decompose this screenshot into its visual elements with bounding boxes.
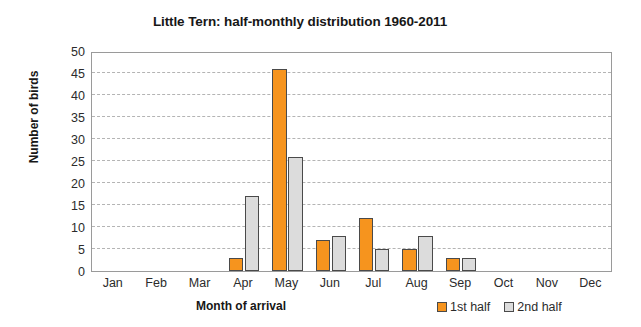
chart-legend: 1st half2nd half (437, 300, 562, 314)
month-bar-group (396, 53, 439, 271)
x-tick-label-oct: Oct (482, 276, 525, 290)
x-tick-label-jul: Jul (352, 276, 395, 290)
x-tick-label-feb: Feb (134, 276, 177, 290)
x-tick-label-dec: Dec (569, 276, 612, 290)
month-bar-group (570, 53, 613, 271)
month-bar-group (526, 53, 569, 271)
gray-square-swatch (504, 302, 514, 312)
chart-figure: Little Tern: half-monthly distribution 1… (0, 0, 641, 327)
orange-square-swatch (437, 302, 447, 312)
x-axis-tick-labels: JanFebMarAprMayJunJulAugSepOctNovDec (91, 276, 612, 294)
month-bar-group (483, 53, 526, 271)
month-bar-group (266, 53, 309, 271)
bar-jul-second-half (375, 249, 390, 271)
legend-entry-first-half[interactable]: 1st half (437, 300, 490, 314)
x-tick-label-sep: Sep (438, 276, 481, 290)
month-bar-group (309, 53, 352, 271)
y-tick-label: 0 (45, 266, 85, 279)
bar-jun-first-half (316, 240, 331, 271)
bar-apr-second-half (245, 196, 260, 271)
y-tick-label: 35 (45, 112, 85, 125)
bar-sep-second-half (462, 258, 477, 271)
legend-label: 1st half (450, 300, 490, 314)
month-bar-group (179, 53, 222, 271)
month-bar-group (353, 53, 396, 271)
plot-area (91, 52, 612, 272)
bar-may-second-half (288, 157, 303, 271)
y-tick-label: 10 (45, 222, 85, 235)
y-tick-label: 45 (45, 68, 85, 81)
bar-sep-first-half (446, 258, 461, 271)
x-axis-title: Month of arrival (91, 299, 391, 313)
y-tick-label: 25 (45, 156, 85, 169)
x-tick-label-jun: Jun (308, 276, 351, 290)
y-tick-label: 15 (45, 200, 85, 213)
bar-apr-first-half (229, 258, 244, 271)
y-tick-label: 20 (45, 178, 85, 191)
x-tick-label-jan: Jan (91, 276, 134, 290)
y-tick-label: 50 (45, 46, 85, 59)
legend-label: 2nd half (517, 300, 561, 314)
x-tick-label-may: May (265, 276, 308, 290)
y-axis-tick-labels: 05101520253035404550 (41, 52, 85, 272)
bar-may-first-half (272, 69, 287, 271)
month-bar-group (439, 53, 482, 271)
bar-jul-first-half (359, 218, 374, 271)
bar-aug-first-half (402, 249, 417, 271)
month-bar-group (92, 53, 135, 271)
month-bar-group (135, 53, 178, 271)
x-tick-label-nov: Nov (525, 276, 568, 290)
y-tick-label: 40 (45, 90, 85, 103)
y-tick-label: 30 (45, 134, 85, 147)
bar-jun-second-half (332, 236, 347, 271)
x-tick-label-mar: Mar (178, 276, 221, 290)
legend-entry-second-half[interactable]: 2nd half (504, 300, 561, 314)
x-tick-label-apr: Apr (221, 276, 264, 290)
y-axis-title: Number of birds (27, 37, 41, 197)
y-tick-label: 5 (45, 244, 85, 257)
bar-aug-second-half (418, 236, 433, 271)
month-bar-group (222, 53, 265, 271)
x-tick-label-aug: Aug (395, 276, 438, 290)
chart-title: Little Tern: half-monthly distribution 1… (0, 14, 600, 29)
